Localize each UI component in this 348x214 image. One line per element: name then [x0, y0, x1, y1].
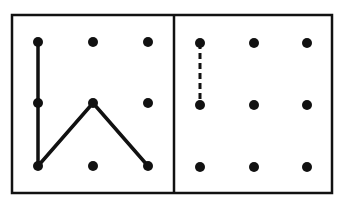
grid-dot — [143, 37, 153, 47]
grid-dot — [143, 161, 153, 171]
grid-dot — [88, 98, 98, 108]
grid-dot — [33, 161, 43, 171]
grid-dot — [249, 100, 259, 110]
grid-dot — [195, 100, 205, 110]
grid-dot — [302, 162, 312, 172]
grid-dot — [88, 161, 98, 171]
outer-frame — [12, 15, 332, 193]
grid-dot — [249, 38, 259, 48]
left-panel — [33, 37, 153, 171]
dot-grid-figure — [0, 0, 348, 214]
grid-dot — [88, 37, 98, 47]
right-panel — [195, 38, 312, 172]
grid-dot — [249, 162, 259, 172]
grid-dot — [33, 98, 43, 108]
dot-grid-diagram — [0, 0, 348, 214]
grid-dot — [302, 100, 312, 110]
grid-dot — [195, 162, 205, 172]
grid-dot — [33, 37, 43, 47]
dot-grid — [195, 38, 312, 172]
grid-dot — [195, 38, 205, 48]
grid-dot — [302, 38, 312, 48]
grid-dot — [143, 98, 153, 108]
